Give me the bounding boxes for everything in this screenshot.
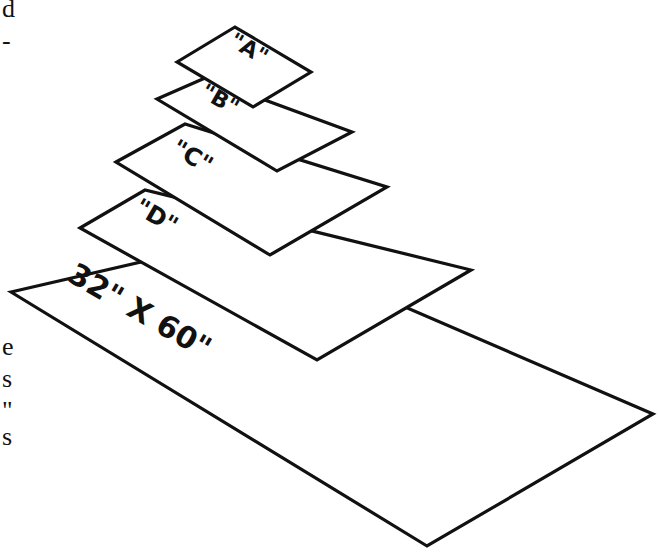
stacked-panels-diagram: 32" X 60" "D" "C" "B" "A"	[0, 0, 659, 557]
